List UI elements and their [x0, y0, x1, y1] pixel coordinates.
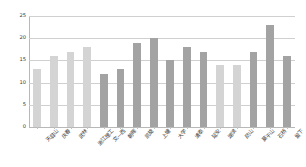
- x-axis-label: 上塘: [161, 129, 172, 140]
- x-axis-label: 莫干山: [262, 129, 277, 144]
- x-axis-label: 朝晖: [127, 129, 138, 140]
- x-axis-label: 清泰: [194, 129, 205, 140]
- x-axis-label: 湖滨: [227, 129, 238, 140]
- bar[interactable]: [166, 60, 174, 127]
- plot-area: [29, 16, 295, 127]
- x-axis-label: 庆春: [61, 129, 72, 140]
- bar[interactable]: [133, 43, 141, 127]
- x-axis-label: 文一西: [112, 129, 127, 144]
- bar[interactable]: [150, 38, 158, 127]
- bar[interactable]: [233, 65, 241, 127]
- bar[interactable]: [183, 47, 191, 127]
- bar[interactable]: [50, 56, 58, 127]
- x-axis-label: 石桥: [277, 129, 288, 140]
- bar[interactable]: [67, 52, 75, 127]
- x-axis-label: 天目山: [46, 129, 61, 144]
- x-axis-label: 凤山: [244, 129, 255, 140]
- y-axis-tick-labels: 0510152025: [0, 16, 26, 127]
- bars-layer: [29, 16, 295, 127]
- x-axis-label: 凯旋: [144, 129, 155, 140]
- bar[interactable]: [200, 52, 208, 127]
- y-tick-label: 0: [23, 124, 26, 129]
- bar[interactable]: [100, 74, 108, 127]
- bar[interactable]: [33, 69, 41, 127]
- y-tick-label: 5: [23, 102, 26, 107]
- y-tick-label: 25: [19, 13, 26, 18]
- x-axis-label: 延安: [210, 129, 221, 140]
- gridline: [29, 127, 295, 128]
- bar[interactable]: [250, 52, 258, 127]
- y-tick-label: 10: [19, 80, 26, 85]
- x-axis-label: 留下: [294, 129, 305, 140]
- bar[interactable]: [216, 65, 224, 127]
- y-tick-label: 15: [19, 58, 26, 63]
- x-axis-labels: 天目山庆春武林浙江理工文一西朝晖凯旋上塘大学清泰延安湖滨凤山莫干山石桥留下: [29, 129, 295, 167]
- y-tick-label: 20: [19, 36, 26, 41]
- bar[interactable]: [283, 56, 291, 127]
- bar[interactable]: [266, 25, 274, 127]
- x-axis-label: 大学: [177, 129, 188, 140]
- bar-chart: 0510152025 天目山庆春武林浙江理工文一西朝晖凯旋上塘大学清泰延安湖滨凤…: [0, 0, 306, 167]
- x-axis-label: 武林: [77, 129, 88, 140]
- bar[interactable]: [83, 47, 91, 127]
- bar[interactable]: [117, 69, 125, 127]
